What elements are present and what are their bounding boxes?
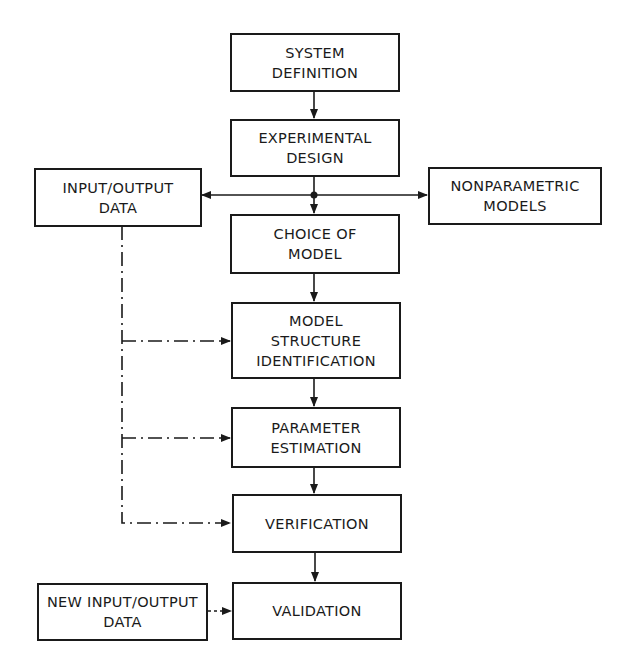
node-nonparametric-models: NONPARAMETRIC MODELS xyxy=(428,167,602,225)
node-label-line: STRUCTURE xyxy=(271,331,361,351)
node-model-structure-identification: MODEL STRUCTURE IDENTIFICATION xyxy=(231,302,401,379)
node-system-definition: SYSTEM DEFINITION xyxy=(230,33,400,92)
node-label-line: NONPARAMETRIC xyxy=(450,176,579,196)
node-label-line: INPUT/OUTPUT xyxy=(63,178,174,198)
node-new-input-output-data: NEW INPUT/OUTPUT DATA xyxy=(37,583,208,641)
junction-dot xyxy=(311,192,318,199)
node-label-line: VALIDATION xyxy=(272,601,361,621)
node-label-line: DATA xyxy=(103,612,142,632)
node-label-line: IDENTIFICATION xyxy=(256,351,376,371)
node-label-line: PARAMETER xyxy=(271,418,361,438)
node-verification: VERIFICATION xyxy=(232,494,402,553)
node-label-line: MODELS xyxy=(483,196,546,216)
node-label-line: DEFINITION xyxy=(272,63,358,83)
node-label-line: DATA xyxy=(99,198,138,218)
node-label-line: NEW INPUT/OUTPUT xyxy=(47,592,198,612)
node-label-line: MODEL xyxy=(289,311,343,331)
node-label-line: MODEL xyxy=(288,244,342,264)
node-parameter-estimation: PARAMETER ESTIMATION xyxy=(231,407,401,468)
node-experimental-design: EXPERIMENTAL DESIGN xyxy=(230,119,400,177)
node-input-output-data: INPUT/OUTPUT DATA xyxy=(34,168,202,227)
node-label-line: EXPERIMENTAL xyxy=(258,128,371,148)
node-label-line: VERIFICATION xyxy=(265,514,369,534)
node-label-line: DESIGN xyxy=(286,148,344,168)
node-validation: VALIDATION xyxy=(232,582,402,640)
node-label-line: ESTIMATION xyxy=(270,438,361,458)
node-label-line: SYSTEM xyxy=(285,43,345,63)
node-choice-of-model: CHOICE OF MODEL xyxy=(230,214,400,274)
dashdot-data-bus xyxy=(122,226,230,523)
node-label-line: CHOICE OF xyxy=(273,224,356,244)
